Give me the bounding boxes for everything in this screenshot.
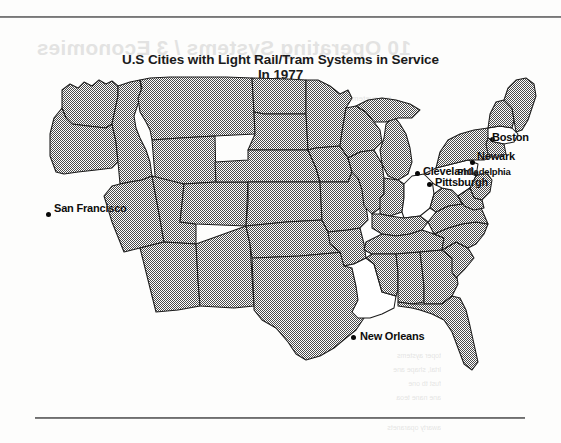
city-label-san-francisco: San Francisco — [54, 202, 127, 214]
state-ohio — [402, 174, 434, 218]
state-kansas — [246, 182, 322, 226]
state-alabama — [396, 252, 424, 304]
state-north-dakota — [252, 78, 306, 114]
city-dot-new-orleans[interactable] — [351, 335, 356, 340]
state-south-dakota — [248, 112, 308, 150]
state-washington — [62, 80, 118, 128]
state-shapes — [50, 77, 536, 370]
state-indiana — [380, 178, 404, 216]
state-colorado — [180, 182, 248, 226]
city-label-philadelphia: Philadelphia — [457, 166, 511, 177]
city-label-new-orleans: New Orleans — [360, 330, 424, 342]
state-arizona — [140, 242, 200, 312]
state-texas — [252, 252, 364, 360]
top-horizontal-rule — [0, 16, 561, 18]
map-container — [0, 72, 561, 372]
united-states-map — [0, 72, 561, 372]
title-line-1: U.S Cities with Light Rail/Tram Systems … — [122, 52, 439, 67]
bottom-horizontal-rule — [35, 417, 525, 419]
city-label-pittsburgh: Pittsburgh — [435, 176, 488, 188]
state-michigan — [380, 116, 412, 180]
city-dot-pittsburgh[interactable] — [427, 182, 432, 187]
city-label-boston: Boston — [492, 131, 529, 143]
city-dot-san-francisco[interactable] — [46, 212, 51, 217]
state-nebraska — [215, 150, 320, 182]
city-dot-cleveland[interactable] — [415, 171, 420, 176]
city-label-newark: Newark — [477, 150, 515, 162]
state-new-mexico — [196, 226, 254, 308]
state-montana — [138, 77, 255, 140]
city-dot-newark[interactable] — [470, 160, 475, 165]
